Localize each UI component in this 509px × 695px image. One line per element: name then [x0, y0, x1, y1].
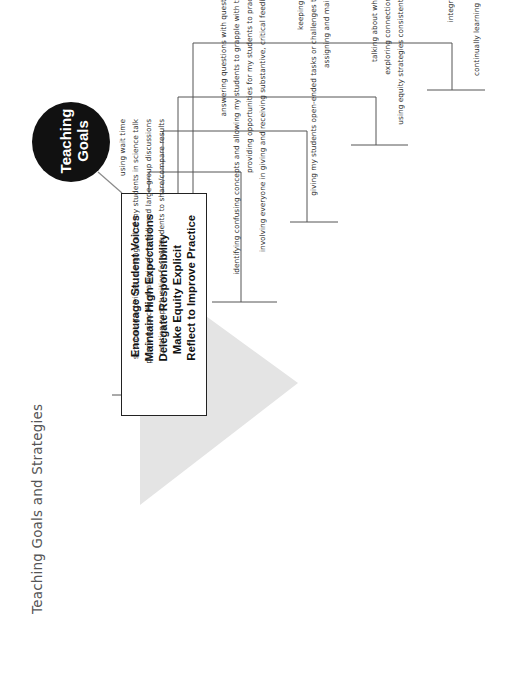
strategy-item: exploring connections between beliefs an…	[381, 0, 394, 149]
strategy-item: keeping my hands in my pockets	[294, 0, 307, 226]
center-line-1: Teaching	[57, 106, 74, 176]
strategies-equity: learning to see inequity talking about w…	[355, 0, 407, 149]
strategy-item: talking about what equity means and look…	[368, 0, 381, 149]
strategy-item: creating opportunities for my students t…	[155, 119, 168, 399]
strategies-maintain: answering questions with questions ident…	[217, 0, 269, 306]
strategy-item: involving everyone in giving and receivi…	[256, 0, 269, 306]
strategy-item: collecting and analyzing classroom evide…	[457, 0, 470, 94]
strategies-reflect: reflecting on the equity climate in my c…	[431, 0, 483, 94]
teaching-goals-label: Teaching Goals	[57, 106, 91, 176]
strategy-item: learning to see inequity	[355, 0, 368, 149]
strategy-item: providing opportunities for my students …	[243, 0, 256, 306]
strategy-item: giving my students open-ended tasks or c…	[307, 0, 320, 226]
strategy-item: continually learning new things and usin…	[470, 0, 483, 94]
strategies-delegate: keeping my hands in my pockets giving my…	[294, 0, 333, 226]
strategy-item: answering questions with questions	[217, 0, 230, 306]
strategies-encourage: using wait time structuring activities t…	[116, 119, 168, 399]
center-line-2: Goals	[74, 106, 91, 176]
strategy-item: identifying confusing concepts and allow…	[230, 0, 243, 306]
goal-reflect-to-improve-practice: Reflect to Improve Practice	[184, 203, 198, 410]
strategy-item: reflecting on the equity climate in my c…	[431, 0, 444, 94]
goal-make-equity-explicit: Make Equity Explicit	[170, 203, 184, 410]
strategy-item: using equity strategies consistently and…	[394, 0, 407, 149]
strategy-item: using wait time	[116, 119, 129, 399]
strategy-item: integrating equity considerations into m…	[444, 0, 457, 94]
strategy-item: assigning and maintaining procedural rol…	[320, 0, 333, 226]
strategy-item: structuring activities to engage all of …	[129, 119, 142, 399]
strategy-item: planning specific strategies for small- …	[142, 119, 155, 399]
page-title: Teaching Goals and Strategies	[29, 404, 45, 614]
